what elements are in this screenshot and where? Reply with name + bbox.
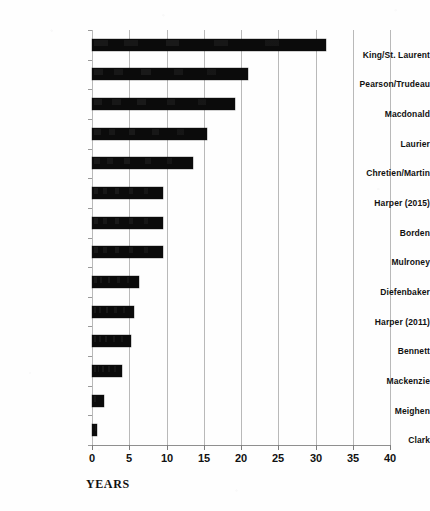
- gridline-25: [278, 30, 279, 445]
- bar: [92, 395, 104, 407]
- y-tick-0: [88, 30, 92, 31]
- x-tick-label-35: 35: [341, 452, 365, 464]
- x-tick-15: [204, 445, 205, 450]
- bar: [92, 128, 207, 140]
- bar: [92, 276, 139, 288]
- y-tick-11: [88, 356, 92, 357]
- category-label: Mackenzie: [344, 376, 430, 386]
- gridline-0: [92, 30, 93, 445]
- bar: [92, 217, 163, 229]
- y-tick-9: [88, 297, 92, 298]
- category-label: Bennett: [344, 346, 430, 356]
- x-tick-5: [129, 445, 130, 450]
- bar: [92, 39, 326, 51]
- category-label: Laurier: [344, 139, 430, 149]
- x-tick-20: [241, 445, 242, 450]
- x-tick-0: [92, 445, 93, 450]
- category-label: Clark: [344, 435, 430, 445]
- gridline-10: [167, 30, 168, 445]
- x-tick-label-40: 40: [378, 452, 402, 464]
- y-tick-14: [88, 445, 92, 446]
- y-tick-4: [88, 149, 92, 150]
- bar: [92, 187, 163, 199]
- category-label: King/St. Laurent: [344, 50, 430, 60]
- bar: [92, 335, 131, 347]
- category-label: Meighen: [344, 406, 430, 416]
- gridline-30: [316, 30, 317, 445]
- x-tick-label-0: 0: [80, 452, 104, 464]
- bar-chart: King/St. LaurentPearson/TrudeauMacdonald…: [0, 0, 430, 511]
- y-tick-10: [88, 326, 92, 327]
- x-tick-label-30: 30: [304, 452, 328, 464]
- gridline-20: [241, 30, 242, 445]
- y-tick-1: [88, 60, 92, 61]
- bar: [92, 68, 248, 80]
- y-tick-8: [88, 267, 92, 268]
- category-label: Macdonald: [344, 109, 430, 119]
- bar: [92, 246, 163, 258]
- x-tick-label-20: 20: [229, 452, 253, 464]
- bar: [92, 424, 97, 436]
- x-tick-label-25: 25: [266, 452, 290, 464]
- y-tick-12: [88, 386, 92, 387]
- y-tick-2: [88, 89, 92, 90]
- x-tick-25: [278, 445, 279, 450]
- bar: [92, 98, 235, 110]
- x-tick-label-5: 5: [117, 452, 141, 464]
- category-label: Harper (2011): [344, 317, 430, 327]
- y-tick-7: [88, 238, 92, 239]
- category-label: Harper (2015): [344, 198, 430, 208]
- x-axis-title: YEARS: [86, 477, 130, 492]
- gridline-15: [204, 30, 205, 445]
- category-label: Chretien/Martin: [344, 168, 430, 178]
- gridline-5: [129, 30, 130, 445]
- y-tick-3: [88, 119, 92, 120]
- category-label: Mulroney: [344, 257, 430, 267]
- category-label: Diefenbaker: [344, 287, 430, 297]
- category-label: Borden: [344, 228, 430, 238]
- x-tick-10: [167, 445, 168, 450]
- y-tick-5: [88, 178, 92, 179]
- bar: [92, 157, 193, 169]
- x-tick-40: [390, 445, 391, 450]
- bar: [92, 365, 122, 377]
- x-tick-35: [353, 445, 354, 450]
- y-tick-6: [88, 208, 92, 209]
- x-tick-30: [316, 445, 317, 450]
- bar: [92, 306, 134, 318]
- x-tick-label-15: 15: [192, 452, 216, 464]
- x-tick-label-10: 10: [155, 452, 179, 464]
- category-label: Pearson/Trudeau: [344, 79, 430, 89]
- y-tick-13: [88, 415, 92, 416]
